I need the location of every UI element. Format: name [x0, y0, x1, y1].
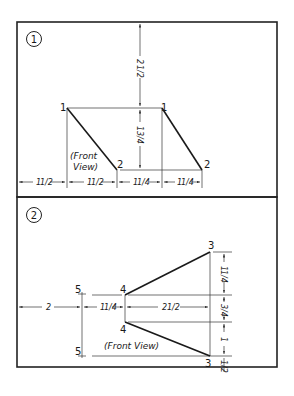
point-1-right: 1: [161, 102, 167, 113]
problem-2-number: 2: [31, 210, 37, 221]
svg-text:3/4: 3/4: [135, 131, 144, 144]
problem-1-frame: [17, 22, 277, 197]
problem-1-panel: 1 1 2 1 2 (Front View) 2 1/2 1 3/4: [17, 22, 277, 197]
line-4-3-upper: [125, 252, 210, 295]
horizontal-dimension-row-2: 2 1 1/4 2 1/2: [19, 303, 208, 312]
problem-2-panel: 2 5 5 4 4 3 3 (Front View) 2: [17, 197, 277, 373]
svg-text:1/2: 1/2: [167, 303, 180, 312]
dim-1-3-4: 1 3/4: [135, 126, 144, 144]
svg-text:1/4: 1/4: [219, 270, 228, 283]
svg-text:1/2: 1/2: [135, 65, 144, 78]
svg-text:1/4: 1/4: [137, 178, 150, 187]
front-view-label-line2: View): [73, 162, 98, 172]
point-4-top: 4: [120, 284, 126, 295]
dim-2: 2: [46, 303, 51, 312]
dim-1-2-vertical: 1/2: [219, 360, 228, 373]
dim-3-4-vertical: 3/4: [219, 304, 228, 317]
point-1-left: 1: [60, 102, 66, 113]
dim-1-vertical: 1: [219, 337, 228, 342]
svg-text:2: 2: [135, 59, 144, 64]
point-5-top: 5: [75, 284, 81, 295]
point-2-left: 2: [117, 159, 123, 170]
point-3-top: 3: [208, 240, 214, 251]
front-view-label: (Front View): [104, 341, 159, 351]
dim-2-1-2: 2 1/2: [135, 59, 144, 78]
problem-2-number-badge: 2: [27, 208, 42, 223]
svg-text:1/4: 1/4: [181, 178, 194, 187]
point-2-right: 2: [204, 159, 210, 170]
svg-text:1/4: 1/4: [104, 303, 117, 312]
svg-text:1/2: 1/2: [91, 178, 104, 187]
problem-1-number: 1: [31, 34, 37, 45]
line-1-2-side: [162, 108, 202, 170]
svg-text:1/2: 1/2: [40, 178, 53, 187]
point-3-bottom: 3: [205, 358, 211, 369]
vertical-dimension-column: 1 1/4 3/4 1 1/2: [219, 254, 228, 373]
drawing-sheet: 1 1 2 1 2 (Front View) 2 1/2 1 3/4: [0, 0, 294, 396]
front-view-label-line1: (Front: [70, 151, 98, 161]
point-4-bottom: 4: [120, 324, 126, 335]
horizontal-dimension-row: 1 1/2 1 1/2 1 1/4 1 1/4: [19, 178, 200, 187]
point-5-bottom: 5: [75, 346, 81, 357]
problem-1-number-badge: 1: [27, 32, 42, 47]
